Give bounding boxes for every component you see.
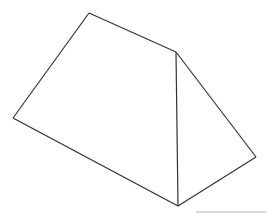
edge-right-slant <box>176 52 256 157</box>
edge-vertical <box>176 52 178 206</box>
edge-bottom-right <box>178 157 256 206</box>
edge-left-upper <box>13 13 89 118</box>
cropped-caption <box>196 211 266 214</box>
triangular-prism-diagram <box>0 0 270 216</box>
cropped-caption-fragment <box>196 211 266 213</box>
edge-top <box>89 13 176 52</box>
edge-left-lower <box>13 118 178 206</box>
